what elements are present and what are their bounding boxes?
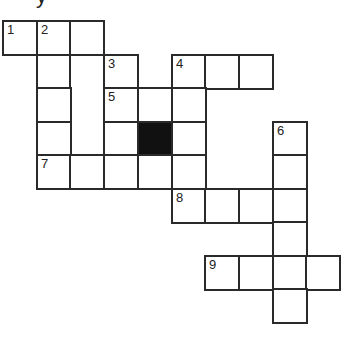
blocked-cell [137, 121, 173, 157]
crossword-cell[interactable]: 3 [103, 54, 139, 90]
crossword-cell[interactable]: 9 [204, 255, 240, 291]
crossword-cell[interactable]: 6 [272, 121, 308, 157]
crossword-cell[interactable]: 1 [2, 20, 38, 56]
crossword-cell[interactable]: 5 [103, 87, 139, 123]
crossword-cell[interactable] [137, 87, 173, 123]
clue-number: 4 [176, 57, 183, 71]
crossword-cell[interactable] [69, 20, 105, 56]
crossword-cell[interactable] [69, 154, 105, 190]
crossword-cell[interactable] [305, 255, 341, 291]
crossword-cell[interactable]: 8 [171, 188, 207, 224]
crossword-cell[interactable] [272, 221, 308, 257]
clue-number: 1 [7, 23, 14, 37]
clue-number: 6 [277, 124, 284, 138]
crossword-cell[interactable] [272, 154, 308, 190]
crossword-cell[interactable] [272, 255, 308, 291]
clue-number: 8 [176, 191, 183, 205]
clue-number: 9 [209, 258, 216, 272]
crossword-cell[interactable] [204, 188, 240, 224]
crossword-cell[interactable] [171, 121, 207, 157]
crossword-cell[interactable] [238, 188, 274, 224]
crossword-cell[interactable] [238, 255, 274, 291]
crossword-cell[interactable] [36, 54, 72, 90]
crossword-grid: 123456789 [0, 0, 352, 342]
crossword-cell[interactable] [238, 54, 274, 90]
crossword-cell[interactable] [69, 54, 105, 157]
crossword-cell[interactable] [137, 154, 173, 190]
crossword-cell[interactable]: 2 [36, 20, 72, 56]
crossword-cell[interactable] [36, 121, 72, 157]
crossword-cell[interactable] [272, 188, 308, 224]
clue-number: 5 [108, 90, 115, 104]
clue-number: 2 [41, 23, 48, 37]
clue-number: 3 [108, 57, 115, 71]
crossword-cell[interactable] [272, 288, 308, 324]
crossword-cell[interactable]: 7 [36, 154, 72, 190]
crossword-cell[interactable] [171, 87, 207, 123]
crossword-cell[interactable] [103, 154, 139, 190]
crossword-cell[interactable] [103, 121, 139, 157]
crossword-cell[interactable] [171, 154, 207, 190]
clue-number: 7 [41, 157, 48, 171]
crossword-cell[interactable] [204, 54, 240, 90]
crossword-cell[interactable]: 4 [171, 54, 207, 90]
crossword-cell[interactable] [36, 87, 72, 123]
